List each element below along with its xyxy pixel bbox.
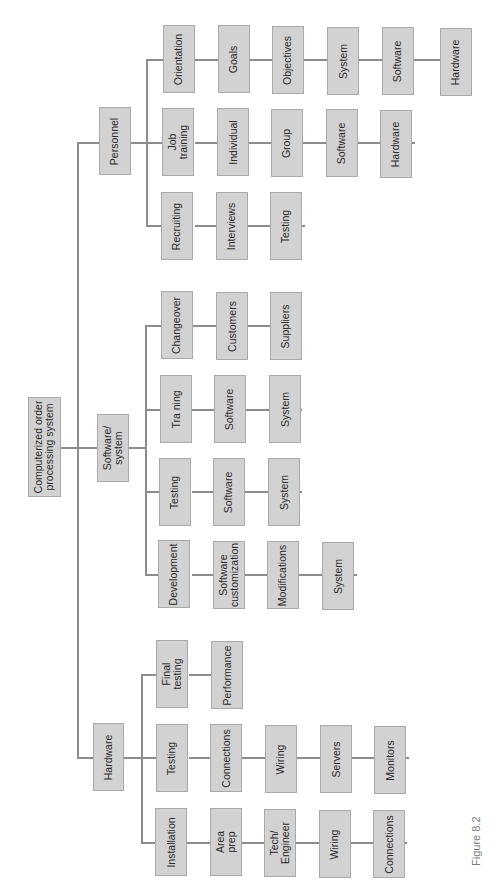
node-label: Group xyxy=(282,128,293,157)
node-tech-engineer: Tech/ Engineer xyxy=(264,809,296,877)
node-label: Development xyxy=(169,543,180,605)
line xyxy=(145,409,161,411)
node-monitors: Monitors xyxy=(374,726,406,794)
spine-line xyxy=(77,142,79,758)
node-label: Testing xyxy=(170,475,181,508)
hardware-branch-stub xyxy=(124,757,141,759)
root-connector xyxy=(61,447,97,449)
node-label: Job training xyxy=(167,125,189,159)
node-system: System xyxy=(268,458,300,526)
node-label: Hardware xyxy=(391,121,402,167)
node-area-prep: Area prep xyxy=(210,808,242,876)
node-label: Software customization xyxy=(218,543,240,607)
node-installation: Installation xyxy=(155,808,187,876)
node-goals: Goals xyxy=(218,25,250,93)
node-label: System xyxy=(279,474,290,509)
node-testing: Testing xyxy=(156,724,188,792)
node-label: Software xyxy=(393,40,404,81)
node-label: Software/ system xyxy=(102,426,124,470)
node-objectives: Objectives xyxy=(272,26,304,94)
node-label: Software xyxy=(337,122,348,163)
node-label: Modifications xyxy=(278,544,289,605)
node-recruiting: Recruiting xyxy=(161,192,193,260)
node-label: Wiring xyxy=(329,829,340,859)
node-development: Development xyxy=(158,540,190,608)
node-label: System xyxy=(280,391,291,426)
node-suppliers: Suppliers xyxy=(270,292,302,360)
node-customers: Customers xyxy=(216,292,248,360)
root-node: Computerized order processing system xyxy=(28,397,61,497)
node-connections: Connections xyxy=(210,724,242,792)
node-label: Changeover xyxy=(172,296,183,353)
node-software-system: Software/ system xyxy=(97,414,129,482)
software-branch-line xyxy=(145,325,147,574)
node-label: Tech/ Engineer xyxy=(269,822,291,864)
node-software-customization: Software customization xyxy=(213,541,245,609)
node-software: Software xyxy=(326,109,358,177)
node-label: Monitors xyxy=(385,740,396,780)
node-interviews: Interviews xyxy=(216,192,248,260)
node-servers: Servers xyxy=(320,725,352,793)
node-label: Tra ning xyxy=(171,390,182,428)
node-label: Suppliers xyxy=(281,304,292,348)
node-wiring: Wiring xyxy=(265,725,297,793)
node-testing: Testing xyxy=(270,192,302,260)
node-label: Hardware xyxy=(451,39,462,85)
node-label: Recruiting xyxy=(172,202,183,249)
node-software: Software xyxy=(214,375,246,443)
node-hardware-leaf: Hardware xyxy=(380,110,412,178)
node-label: Wiring xyxy=(275,744,286,774)
node-label: Goals xyxy=(229,45,240,72)
node-label: Personnel xyxy=(110,117,121,164)
node-hardware-leaf: Hardware xyxy=(440,28,472,96)
node-individual: Individual xyxy=(217,108,249,176)
node-changeover: Changeover xyxy=(161,291,193,359)
line xyxy=(145,325,161,327)
node-testing: Testing xyxy=(159,458,191,526)
node-label: Computerized order processing system xyxy=(34,401,56,494)
node-label: Hardware xyxy=(103,734,114,780)
node-personnel: Personnel xyxy=(99,107,131,175)
node-label: Connections xyxy=(384,815,395,873)
wbs-diagram: Computerized order processing system Per… xyxy=(0,0,492,896)
line xyxy=(141,842,155,844)
node-label: Objectives xyxy=(283,35,294,84)
node-label: Installation xyxy=(166,817,177,867)
node-label: Interviews xyxy=(227,202,238,249)
node-orientation: Orientation xyxy=(163,25,195,93)
node-connections: Connections xyxy=(373,810,405,878)
line xyxy=(146,142,163,144)
node-label: Area prep xyxy=(215,831,237,853)
node-software: Software xyxy=(382,27,414,95)
node-label: Software xyxy=(225,388,236,429)
node-system: System xyxy=(327,27,359,95)
node-label: Servers xyxy=(331,741,342,777)
node-group: Group xyxy=(271,109,303,177)
node-modifications: Modifications xyxy=(267,541,299,609)
node-label: Orientation xyxy=(174,33,185,84)
personnel-branch-stub xyxy=(131,142,146,144)
node-training: Tra ning xyxy=(160,375,192,443)
node-label: Testing xyxy=(281,209,292,242)
line xyxy=(146,59,163,61)
node-system: System xyxy=(269,375,301,443)
node-final-testing: Final testing xyxy=(156,640,188,708)
node-job-training: Job training xyxy=(162,108,194,176)
node-software: Software xyxy=(213,458,245,526)
node-label: Final testing xyxy=(161,659,183,690)
node-label: Performance xyxy=(222,645,233,705)
node-hardware: Hardware xyxy=(93,723,124,791)
software-branch-stub xyxy=(129,447,145,449)
node-label: System xyxy=(333,558,344,593)
node-wiring: Wiring xyxy=(319,810,351,878)
node-label: System xyxy=(338,43,349,78)
node-label: Testing xyxy=(167,741,178,774)
personnel-connector xyxy=(77,142,99,144)
node-performance: Performance xyxy=(211,641,243,709)
node-label: Individual xyxy=(228,120,239,164)
node-label: Customers xyxy=(227,301,238,352)
node-system: System xyxy=(322,542,354,610)
node-label: Software xyxy=(224,471,235,512)
figure-caption: Figure 8.2 xyxy=(470,816,482,866)
hardware-connector xyxy=(77,757,93,759)
